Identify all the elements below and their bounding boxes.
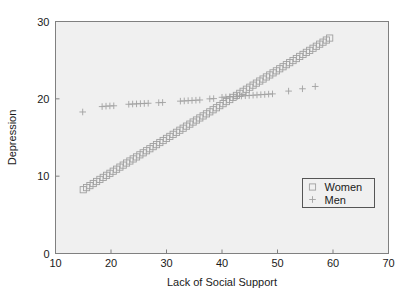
y-tick-label: 0	[43, 248, 49, 260]
y-tick-label: 10	[37, 170, 49, 182]
plot-area	[56, 22, 389, 254]
chart-canvas: 102030405060700102030Lack of Social Supp…	[0, 0, 412, 308]
x-tick-label: 30	[160, 257, 172, 269]
legend-label-women: Women	[325, 181, 363, 193]
x-tick-label: 10	[49, 257, 61, 269]
x-tick-label: 40	[216, 257, 228, 269]
x-tick-label: 20	[105, 257, 117, 269]
x-tick-label: 50	[271, 257, 283, 269]
y-axis-title: Depression	[6, 110, 18, 166]
plot-background	[56, 22, 389, 254]
x-tick-label: 70	[382, 257, 394, 269]
x-tick-label: 60	[327, 257, 339, 269]
scatter-chart: 102030405060700102030Lack of Social Supp…	[0, 0, 412, 308]
x-axis-title: Lack of Social Support	[167, 276, 277, 288]
y-tick-label: 30	[37, 16, 49, 28]
legend-label-men: Men	[325, 194, 346, 206]
chart-legend: WomenMen	[303, 179, 375, 208]
y-tick-label: 20	[37, 93, 49, 105]
